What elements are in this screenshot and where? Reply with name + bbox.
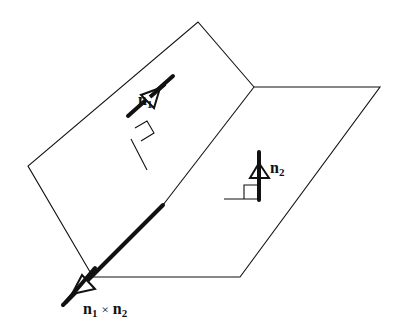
- right-angle-marker-n1: [135, 121, 154, 141]
- plane-1-outline: [28, 22, 254, 277]
- right-angle-marker-n2: [244, 185, 259, 199]
- plane-2-outline: [93, 87, 380, 277]
- normal-vector-n2: [224, 152, 269, 200]
- label-cross-product: n1×n2: [83, 300, 128, 319]
- normal-vector-n1: [128, 76, 173, 170]
- intersection-line: [163, 87, 254, 205]
- cross-product-vector: [63, 205, 163, 305]
- label-n2: n2: [270, 159, 285, 178]
- intersecting-planes-diagram: n1 n2 n1×n2: [0, 0, 407, 328]
